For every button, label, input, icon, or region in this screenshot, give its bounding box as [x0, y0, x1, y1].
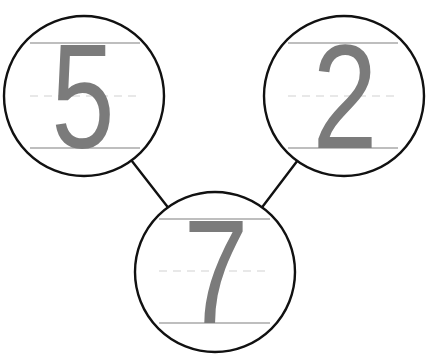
diagram-canvas: 5 2 7: [0, 0, 428, 361]
whole-node: 7: [135, 188, 295, 354]
number-bond-diagram: 5 2 7: [0, 0, 428, 361]
left-part-digit: 5: [51, 13, 114, 179]
connector-right-to-whole: [260, 156, 301, 210]
left-part-node: 5: [4, 13, 164, 179]
connector-left-to-whole: [128, 156, 170, 210]
right-part-node: 2: [264, 13, 424, 179]
right-part-digit: 2: [313, 13, 378, 179]
whole-digit: 7: [184, 188, 249, 354]
